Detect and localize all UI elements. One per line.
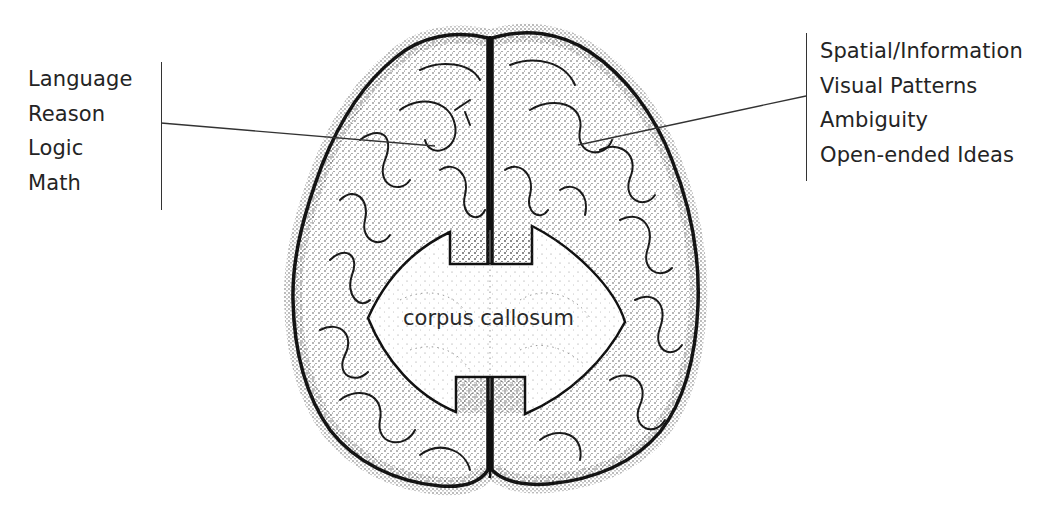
corpus-callosum-label: corpus callosum	[403, 306, 574, 330]
label-spatial-information: Spatial/Information	[820, 34, 1023, 69]
right-bracket	[806, 33, 807, 181]
left-hemisphere-labels: Language Reason Logic Math	[28, 62, 132, 200]
label-open-ended-ideas: Open-ended Ideas	[820, 138, 1023, 173]
label-language: Language	[28, 62, 132, 97]
label-logic: Logic	[28, 131, 132, 166]
label-reason: Reason	[28, 97, 132, 132]
left-bracket	[161, 62, 162, 210]
right-hemisphere-labels: Spatial/Information Visual Patterns Ambi…	[820, 34, 1023, 172]
label-ambiguity: Ambiguity	[820, 103, 1023, 138]
label-math: Math	[28, 166, 132, 201]
label-visual-patterns: Visual Patterns	[820, 69, 1023, 104]
